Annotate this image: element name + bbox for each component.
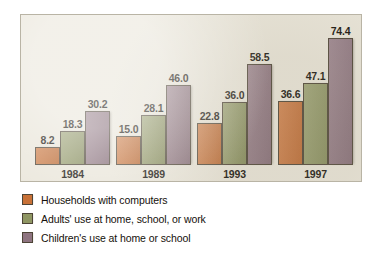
legend-item-label: Children's use at home or school (41, 232, 190, 244)
bar-1984-series-2[interactable]: 18.3 (60, 131, 85, 165)
bar-value-label: 18.3 (63, 118, 83, 130)
bar-1993-series-3[interactable]: 58.5 (247, 64, 272, 165)
bar-slot: 36.0 (222, 102, 247, 165)
legend-item-2[interactable]: Adults' use at home, school, or work (22, 209, 362, 228)
bar-value-label: 8.2 (41, 134, 55, 146)
bar-1984-series-1[interactable]: 8.2 (35, 147, 60, 165)
bar-slot: 18.3 (60, 131, 85, 165)
x-axis-tick-label-1997: 1997 (304, 168, 327, 180)
bar-group-1997: 36.647.174.41997 (278, 38, 353, 165)
legend-item-3[interactable]: Children's use at home or school (22, 228, 362, 247)
plot-area: 8.218.330.2198415.028.146.0198922.836.05… (21, 15, 361, 181)
bar-value-label: 58.5 (250, 51, 270, 63)
bar-value-label: 28.1 (144, 102, 164, 114)
bar-slot: 46.0 (166, 85, 191, 165)
bar-slot: 15.0 (116, 136, 141, 165)
x-axis-tick-label-1993: 1993 (223, 168, 246, 180)
legend-item-label: Adults' use at home, school, or work (41, 213, 206, 225)
chart-legend: Households with computersAdults' use at … (22, 190, 362, 247)
bar-value-label: 30.2 (88, 98, 108, 110)
bar-1989-series-1[interactable]: 15.0 (116, 136, 141, 165)
legend-swatch-icon (22, 232, 33, 243)
bar-slot: 47.1 (303, 83, 328, 165)
bar-1997-series-1[interactable]: 36.6 (278, 101, 303, 165)
bar-1997-series-3[interactable]: 74.4 (328, 38, 353, 165)
bar-slot: 22.8 (197, 123, 222, 165)
bar-value-label: 36.0 (225, 89, 245, 101)
bar-value-label: 36.6 (281, 88, 301, 100)
bar-slot: 58.5 (247, 64, 272, 165)
bar-1984-series-3[interactable]: 30.2 (85, 111, 110, 165)
bar-slot: 30.2 (85, 111, 110, 165)
bar-value-label: 46.0 (169, 72, 189, 84)
legend-item-1[interactable]: Households with computers (22, 190, 362, 209)
bar-value-label: 74.4 (331, 25, 351, 37)
bar-slot: 74.4 (328, 38, 353, 165)
bar-group-1984: 8.218.330.21984 (35, 111, 110, 165)
bar-1997-series-2[interactable]: 47.1 (303, 83, 328, 165)
bar-1989-series-2[interactable]: 28.1 (141, 115, 166, 165)
bar-value-label: 22.8 (200, 110, 220, 122)
bar-value-label: 47.1 (306, 70, 326, 82)
bar-1993-series-2[interactable]: 36.0 (222, 102, 247, 165)
x-axis-tick-label-1984: 1984 (61, 168, 84, 180)
bar-slot: 36.6 (278, 101, 303, 165)
bar-value-label: 15.0 (119, 123, 139, 135)
chart-figure: 8.218.330.2198415.028.146.0198922.836.05… (0, 0, 380, 256)
bar-group-1993: 22.836.058.51993 (197, 64, 272, 165)
legend-swatch-icon (22, 194, 33, 205)
bar-slot: 28.1 (141, 115, 166, 165)
legend-item-label: Households with computers (41, 194, 167, 206)
bar-1993-series-1[interactable]: 22.8 (197, 123, 222, 165)
x-axis-tick-label-1989: 1989 (142, 168, 165, 180)
bar-group-1989: 15.028.146.01989 (116, 85, 191, 165)
chart-panel: 8.218.330.2198415.028.146.0198922.836.05… (20, 14, 362, 182)
bar-slot: 8.2 (35, 147, 60, 165)
legend-swatch-icon (22, 213, 33, 224)
bar-1989-series-3[interactable]: 46.0 (166, 85, 191, 165)
